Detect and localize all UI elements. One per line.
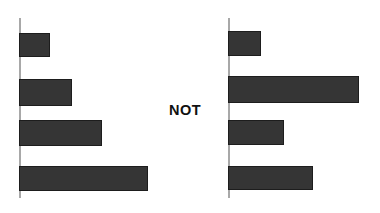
left-chart-bar-3 (19, 120, 102, 146)
right-chart-bar-2 (228, 76, 359, 103)
left-bar-chart (0, 0, 160, 213)
right-chart-bar-1 (228, 31, 261, 56)
left-chart-bar-1 (19, 33, 50, 57)
figure-canvas: NOT (0, 0, 380, 213)
not-annotation-label: NOT (160, 103, 210, 117)
left-chart-bar-4 (19, 166, 148, 192)
right-chart-bar-4 (228, 166, 313, 191)
right-bar-chart (210, 0, 380, 213)
right-chart-bar-3 (228, 120, 284, 145)
left-chart-bar-2 (19, 79, 72, 106)
